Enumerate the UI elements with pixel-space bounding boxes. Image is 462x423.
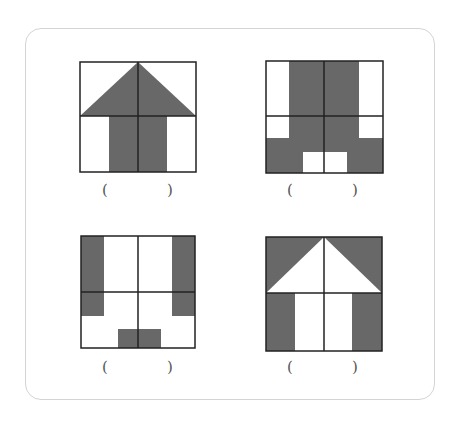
answer-paren-left: ( (287, 181, 293, 199)
figure-house-gray (79, 61, 197, 173)
answer-paren-left: ( (102, 181, 108, 199)
answer-paren-right: ) (167, 181, 173, 199)
answer-paren-right: ) (352, 358, 358, 376)
figure-house-inverse (265, 236, 383, 352)
figure-u-shape (80, 235, 196, 349)
answer-paren-right: ) (167, 358, 173, 376)
answer-paren-right: ) (352, 181, 358, 199)
figure-pants (265, 60, 384, 174)
answer-paren-left: ( (102, 358, 108, 376)
answer-paren-left: ( (287, 358, 293, 376)
